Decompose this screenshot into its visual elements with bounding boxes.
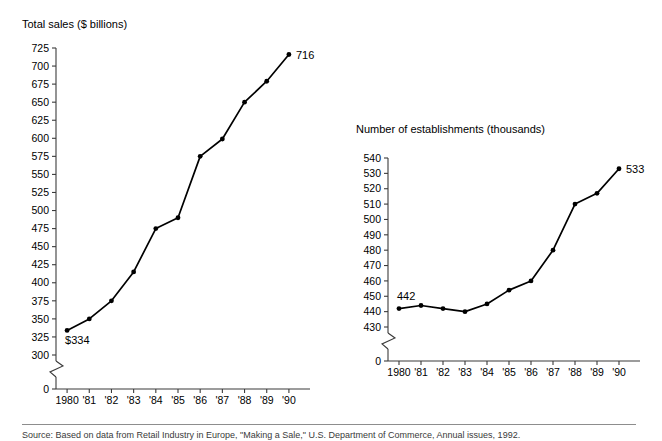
data-point-marker xyxy=(573,202,578,207)
x-tick-label: '88 xyxy=(238,394,252,406)
y-tick-label: 470 xyxy=(363,259,381,271)
x-tick-label: '83 xyxy=(458,366,472,378)
y-axis-break-symbol xyxy=(50,361,63,377)
data-point-marker xyxy=(264,79,269,84)
data-point-marker xyxy=(441,306,446,311)
chart-panel-total-sales: Total sales ($ billions) 300325350375400… xyxy=(0,0,330,420)
data-point-value-label: 716 xyxy=(296,49,314,61)
y-tick-label: 475 xyxy=(31,222,49,234)
x-tick-label: '86 xyxy=(524,366,538,378)
x-tick-label: '82 xyxy=(105,394,119,406)
y-tick-label: 550 xyxy=(31,168,49,180)
data-point-marker xyxy=(551,248,556,253)
data-point-marker xyxy=(176,215,181,220)
x-tick-label: '89 xyxy=(590,366,604,378)
y-tick-label: 510 xyxy=(363,198,381,210)
y-tick-label: 650 xyxy=(31,96,49,108)
x-tick-label: '87 xyxy=(546,366,560,378)
y-tick-label: 525 xyxy=(31,186,49,198)
y-tick-label: 400 xyxy=(31,276,49,288)
data-point-marker xyxy=(220,137,225,142)
data-point-marker xyxy=(507,288,512,293)
data-point-marker xyxy=(595,191,600,196)
y-tick-label: 480 xyxy=(363,244,381,256)
data-point-value-label: $334 xyxy=(65,334,89,346)
x-tick-label: '86 xyxy=(193,394,207,406)
data-point-marker xyxy=(529,279,534,284)
y-tick-label-zero: 0 xyxy=(43,383,49,395)
plot-area-total-sales: 3003253503754004254504755005255505756006… xyxy=(0,0,330,420)
y-tick-label: 600 xyxy=(31,132,49,144)
x-tick-label: 1980 xyxy=(55,394,79,406)
data-point-marker xyxy=(419,303,424,308)
data-point-marker xyxy=(617,166,622,171)
y-tick-label: 625 xyxy=(31,114,49,126)
x-tick-label: '81 xyxy=(414,366,428,378)
y-tick-label: 500 xyxy=(31,204,49,216)
y-tick-label: 300 xyxy=(31,349,49,361)
x-tick-label: '90 xyxy=(612,366,626,378)
y-tick-label: 520 xyxy=(363,182,381,194)
y-tick-label: 575 xyxy=(31,150,49,162)
y-tick-label: 675 xyxy=(31,78,49,90)
y-tick-label-zero: 0 xyxy=(375,355,381,367)
data-point-marker xyxy=(463,309,468,314)
y-tick-label: 430 xyxy=(363,321,381,333)
y-tick-label: 700 xyxy=(31,60,49,72)
data-point-marker xyxy=(153,226,158,231)
y-tick-label: 325 xyxy=(31,331,49,343)
x-tick-label: '85 xyxy=(171,394,185,406)
data-point-marker xyxy=(131,270,136,275)
y-tick-label: 350 xyxy=(31,313,49,325)
footer-divider xyxy=(22,424,636,425)
data-point-marker xyxy=(485,302,490,307)
source-note: Source: Based on data from Retail Indust… xyxy=(22,430,640,441)
y-tick-label: 450 xyxy=(31,240,49,252)
data-point-marker xyxy=(198,154,203,159)
data-point-marker xyxy=(287,52,292,57)
y-tick-label: 540 xyxy=(363,152,381,164)
data-point-marker xyxy=(65,328,70,333)
x-tick-label: '82 xyxy=(436,366,450,378)
x-tick-label: '81 xyxy=(82,394,96,406)
x-tick-label: '90 xyxy=(282,394,296,406)
y-tick-label: 490 xyxy=(363,229,381,241)
y-tick-label: 450 xyxy=(363,290,381,302)
y-tick-label: 530 xyxy=(363,167,381,179)
y-tick-label: 725 xyxy=(31,42,49,54)
x-tick-label: '84 xyxy=(480,366,494,378)
x-tick-label: '85 xyxy=(502,366,516,378)
x-tick-label: '83 xyxy=(127,394,141,406)
data-point-marker xyxy=(109,298,114,303)
x-tick-label: 1980 xyxy=(387,366,411,378)
data-point-value-label: 442 xyxy=(397,290,415,302)
y-tick-label: 500 xyxy=(363,213,381,225)
data-point-marker xyxy=(397,306,402,311)
y-axis-break-symbol xyxy=(382,333,395,349)
data-point-marker xyxy=(242,100,247,105)
y-tick-label: 460 xyxy=(363,275,381,287)
data-point-marker xyxy=(87,316,92,321)
x-tick-label: '84 xyxy=(149,394,163,406)
series-line xyxy=(67,55,289,331)
chart-panel-establishments: Number of establishments (thousands) 430… xyxy=(330,110,662,420)
x-tick-label: '87 xyxy=(216,394,230,406)
plot-area-establishments: 4304404504604704804905005105205305400198… xyxy=(330,110,662,420)
y-tick-label: 440 xyxy=(363,305,381,317)
x-tick-label: '88 xyxy=(568,366,582,378)
data-point-value-label: 533 xyxy=(626,163,644,175)
y-tick-label: 425 xyxy=(31,258,49,270)
y-tick-label: 375 xyxy=(31,295,49,307)
x-tick-label: '89 xyxy=(260,394,274,406)
